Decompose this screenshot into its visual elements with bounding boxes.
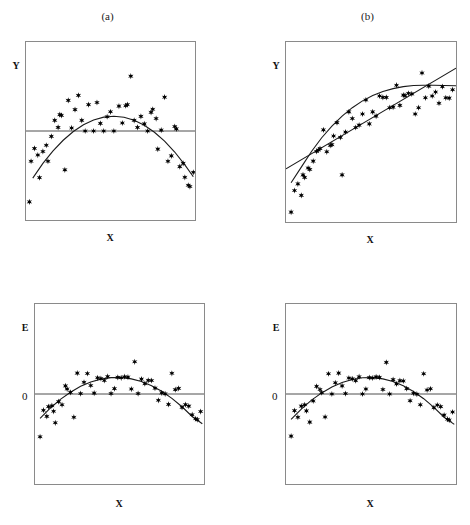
panel-b-frame: [285, 41, 457, 223]
scatter-point: [292, 408, 297, 414]
fit-curve-curved-fit: [291, 85, 456, 183]
scatter-point: [159, 127, 164, 133]
scatter-point: [91, 390, 96, 396]
scatter-point: [37, 175, 42, 181]
panel-a-title: (a): [85, 10, 130, 22]
scatter-point: [129, 386, 134, 392]
scatter-point: [299, 192, 304, 198]
scatter-point: [28, 158, 33, 164]
scatter-point: [430, 93, 435, 99]
scatter-point: [135, 390, 140, 396]
scatter-point: [27, 199, 32, 205]
scatter-point: [53, 420, 58, 426]
scatter-point: [32, 145, 37, 151]
panel-d-ylabel: E: [269, 322, 283, 333]
panel-b-xlabel: X: [363, 234, 377, 245]
scatter-point: [35, 152, 40, 158]
scatter-point: [397, 102, 402, 108]
panel-a-xlabel: X: [103, 232, 117, 243]
scatter-point: [401, 378, 406, 384]
panel-a-frame: [25, 41, 196, 221]
scatter-point: [421, 371, 426, 377]
fit-curve-quadratic-fit: [40, 378, 202, 424]
scatter-point: [367, 121, 372, 127]
scatter-point: [51, 408, 56, 414]
scatter-point: [350, 115, 355, 121]
scatter-point: [322, 414, 327, 420]
scatter-point: [331, 133, 336, 139]
panel-d-plot: [286, 304, 456, 484]
scatter-point: [69, 125, 74, 131]
scatter-point: [416, 105, 421, 111]
panel-d-zero-label: 0: [272, 390, 278, 402]
scatter-point: [419, 70, 424, 76]
scatter-point: [37, 434, 42, 440]
scatter-point: [423, 95, 428, 101]
scatter-point: [182, 174, 187, 180]
scatter-point: [343, 390, 348, 396]
scatter-point: [49, 133, 54, 139]
scatter-point: [153, 115, 158, 121]
panel-a-plot: [26, 42, 195, 220]
scatter-point: [450, 87, 455, 93]
scatter-point: [108, 109, 113, 115]
scatter-point: [440, 84, 445, 90]
scatter-point: [407, 398, 412, 404]
scatter-point: [86, 102, 91, 108]
scatter-point: [360, 111, 365, 117]
scatter-point: [41, 407, 46, 413]
scatter-point: [413, 111, 418, 117]
scatter-point: [120, 120, 125, 126]
scatter-point: [55, 124, 60, 130]
scatter-point: [166, 401, 171, 407]
scatter-point: [311, 398, 316, 404]
scatter-point: [304, 408, 309, 414]
scatter-point: [132, 359, 137, 365]
panel-c-zero-label: 0: [22, 390, 28, 402]
scatter-point: [326, 371, 331, 377]
scatter-point: [169, 153, 174, 159]
panel-c-ylabel: E: [18, 322, 32, 333]
scatter-point: [288, 433, 293, 439]
scatter-point: [116, 103, 121, 109]
scatter-point: [336, 370, 341, 376]
scatter-point: [149, 377, 154, 383]
panel-b-title: (b): [345, 10, 390, 22]
scatter-point: [94, 99, 99, 105]
scatter-point: [436, 100, 441, 106]
scatter-point: [288, 209, 293, 215]
scatter-point: [156, 397, 161, 403]
scatter-point: [292, 187, 297, 193]
panel-a-ylabel: Y: [9, 60, 23, 71]
scatter-point: [138, 113, 143, 119]
scatter-point: [44, 142, 49, 148]
fit-curve-quadratic-fit: [33, 116, 194, 178]
panel-c-frame: [34, 303, 205, 485]
scatter-point: [307, 419, 312, 425]
scatter-point: [85, 370, 90, 376]
scatter-point: [339, 172, 344, 178]
scatter-point: [75, 370, 80, 376]
scatter-point: [363, 386, 368, 392]
scatter-point: [71, 414, 76, 420]
panel-b-ylabel: Y: [269, 60, 283, 71]
scatter-point: [370, 109, 375, 115]
scatter-point: [433, 89, 438, 95]
scatter-point: [426, 83, 431, 89]
scatter-point: [78, 390, 83, 396]
fit-curve-linear-fit: [286, 68, 456, 169]
scatter-point: [165, 158, 170, 164]
panel-b-plot: [286, 42, 456, 222]
scatter-point: [384, 359, 389, 365]
scatter-point: [155, 146, 160, 152]
scatter-point: [380, 386, 385, 392]
scatter-point: [98, 120, 103, 126]
scatter-point: [135, 124, 140, 130]
scatter-point: [311, 158, 316, 164]
panel-c-plot: [35, 304, 204, 484]
scatter-point: [40, 148, 45, 154]
scatter-point: [62, 167, 67, 173]
scatter-point: [295, 181, 300, 187]
scatter-point: [76, 92, 81, 98]
scatter-point: [321, 127, 326, 133]
